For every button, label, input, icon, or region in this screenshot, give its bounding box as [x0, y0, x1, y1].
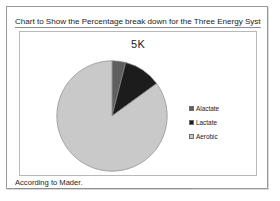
chart-object[interactable]: 5K Alactate Lactate Aerobic — [19, 31, 257, 176]
chart-legend: Alactate Lactate Aerobic — [189, 102, 247, 144]
legend-label-lactate: Lactate — [196, 119, 217, 126]
legend-label-aerobic: Aerobic — [196, 133, 218, 140]
pie-chart-plot[interactable] — [56, 60, 168, 172]
legend-item-aerobic[interactable]: Aerobic — [189, 130, 247, 142]
legend-swatch-alactate — [189, 106, 194, 111]
legend-label-alactate: Alactate — [196, 105, 219, 112]
chart-title: 5K — [20, 38, 256, 50]
pie-slice-group — [57, 61, 167, 171]
legend-item-alactate[interactable]: Alactate — [189, 102, 247, 114]
pie-chart-svg — [56, 60, 168, 172]
slide-title: Chart to Show the Percentage break down … — [15, 15, 261, 28]
legend-swatch-aerobic — [189, 134, 194, 139]
legend-swatch-lactate — [189, 120, 194, 125]
footer-note: According to Mader. — [15, 177, 193, 189]
slide-frame: Chart to Show the Percentage break down … — [6, 6, 268, 189]
legend-item-lactate[interactable]: Lactate — [189, 116, 247, 128]
